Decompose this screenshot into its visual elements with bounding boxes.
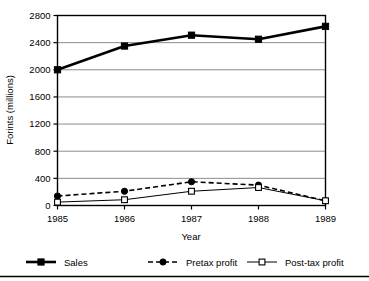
data-point-marker [256,185,262,191]
data-point-marker [188,32,194,38]
line-chart: 040080012001600200024002800 198519861987… [0,0,369,281]
data-point-marker [121,43,127,49]
x-tick-label: 1989 [315,213,336,224]
y-tick-label: 400 [35,173,51,184]
y-axis-title: Forints (millions) [4,75,15,145]
data-point-marker [121,188,127,194]
y-tick-label: 2800 [29,10,50,21]
data-point-marker [55,199,61,205]
y-tick-label: 1600 [29,91,50,102]
data-point-marker [259,259,265,265]
legend-label: Pretax profit [186,257,238,268]
x-tick-label: 1988 [248,213,269,224]
y-tick-label: 2400 [29,37,50,48]
y-tick-label: 800 [35,146,51,157]
data-point-marker [189,188,195,194]
data-point-marker [255,36,261,42]
data-point-marker [38,259,44,265]
x-axis-title: Year [181,231,200,242]
data-point-marker [54,67,60,73]
x-tick-label: 1986 [114,213,135,224]
y-tick-label: 0 [45,200,50,211]
y-tick-label: 2000 [29,64,50,75]
data-point-marker [188,179,194,185]
y-tick-label: 1200 [29,118,50,129]
legend-label: Sales [64,257,88,268]
data-point-marker [54,193,60,199]
legend-label: Post-tax profit [285,257,344,268]
data-point-marker [122,197,128,203]
x-tick-label: 1985 [47,213,68,224]
chart-figure: 040080012001600200024002800 198519861987… [0,0,369,281]
data-point-marker [323,198,329,204]
x-tick-label: 1987 [181,213,202,224]
data-point-marker [160,259,166,265]
data-point-marker [322,23,328,29]
